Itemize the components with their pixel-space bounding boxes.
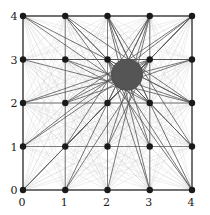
x-axis-tick-label: 0: [19, 196, 26, 209]
disk-shape: [111, 59, 142, 90]
lattice-point: [189, 13, 195, 19]
lattice-point: [189, 187, 195, 193]
lattice-point: [20, 56, 26, 62]
lattice-point: [20, 187, 26, 193]
lattice-point: [104, 143, 110, 149]
plot-canvas: 0123401234: [0, 0, 210, 215]
lattice-point: [147, 100, 153, 106]
y-axis-tick-label: 3: [11, 54, 18, 67]
x-axis-tick-label: 2: [103, 196, 110, 209]
lattice-point: [189, 143, 195, 149]
lattice-point: [104, 13, 110, 19]
y-axis-tick-label: 0: [11, 184, 18, 197]
y-axis-tick-label: 1: [11, 141, 18, 154]
lattice-point: [62, 187, 68, 193]
x-axis-tick-label: 3: [145, 196, 152, 209]
lattice-point: [20, 100, 26, 106]
lattice-point: [104, 100, 110, 106]
y-axis-tick-label: 4: [11, 10, 18, 23]
x-axis-tick-label: 1: [61, 196, 68, 209]
lattice-point: [104, 187, 110, 193]
lattice-point: [62, 100, 68, 106]
x-axis-tick-label: 4: [188, 196, 195, 209]
lattice-point: [189, 56, 195, 62]
lattice-point: [62, 56, 68, 62]
lattice-point: [189, 100, 195, 106]
lattice-point: [147, 56, 153, 62]
lattice-point: [147, 143, 153, 149]
disk-region: [111, 59, 142, 90]
lattice-point: [147, 187, 153, 193]
y-axis-tick-label: 2: [11, 97, 18, 110]
lattice-point: [62, 13, 68, 19]
lattice-disk-figure: 0123401234: [0, 0, 210, 215]
lattice-point: [104, 56, 110, 62]
lattice-point: [20, 143, 26, 149]
lattice-point: [147, 13, 153, 19]
lattice-point: [20, 13, 26, 19]
lattice-point: [62, 143, 68, 149]
